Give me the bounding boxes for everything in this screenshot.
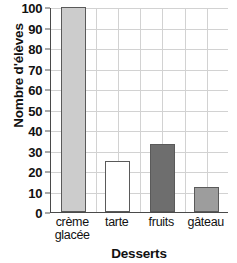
bar [194,187,219,212]
x-axis-tick-label-line: glacée [50,229,95,242]
y-axis-tick-label: 40 [28,124,42,139]
y-axis-tick-label: 30 [28,144,42,159]
x-axis-tick-label-line: tarte [95,216,140,229]
bar-chart-figure: Nombre d'élèves 0102030405060708090100 c… [0,0,237,263]
x-axis-tick-label: crèmeglacée [50,216,95,241]
x-axis-tick-label: fruits [139,216,184,229]
x-axis-tick-label: gâteau [184,216,229,229]
y-axis-tick-label: 70 [28,62,42,77]
x-axis-tick-label: tarte [95,216,140,229]
x-axis-tick-label-line: gâteau [184,216,229,229]
vertical-gridline [207,8,208,212]
y-axis-tick-label: 20 [28,165,42,180]
y-axis-tick-label: 10 [28,185,42,200]
vertical-gridline [96,8,97,212]
plot-area [50,8,228,213]
vertical-gridline [140,8,141,212]
vertical-gridline [185,8,186,212]
y-axis-tick-label: 0 [35,206,42,221]
bar [105,161,130,212]
y-axis-tick-label: 100 [22,1,43,16]
bar [61,7,86,212]
bar [150,144,175,212]
y-axis-tick-label: 60 [28,83,42,98]
x-axis-tick-label-line: crème [50,216,95,229]
x-axis-tick-label-line: fruits [139,216,184,229]
y-axis-tick-label: 90 [28,21,42,36]
y-axis-tick-labels: 0102030405060708090100 [0,0,50,220]
x-axis-title: Desserts [50,246,228,261]
y-axis-tick-label: 50 [28,103,42,118]
x-axis-tick-labels: crèmeglacéetartefruitsgâteau [50,216,228,248]
y-axis-tick-label: 80 [28,42,42,57]
